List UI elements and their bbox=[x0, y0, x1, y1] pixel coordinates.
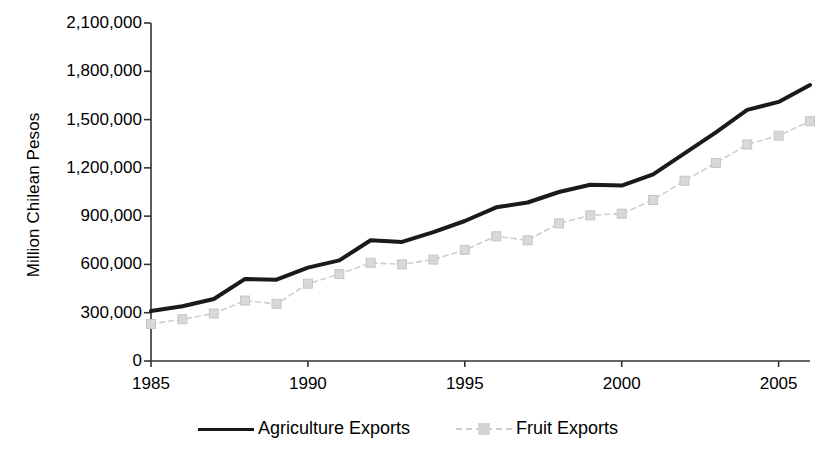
legend-entry-agriculture-exports: Agriculture Exports bbox=[198, 418, 410, 439]
x-axis-tick-label: 1985 bbox=[116, 375, 186, 392]
chart-legend: Agriculture Exports Fruit Exports bbox=[0, 418, 816, 439]
x-axis-tick-label: 2005 bbox=[744, 375, 814, 392]
legend-swatch-solid-line-icon bbox=[198, 421, 254, 437]
x-axis-tick-label: 2000 bbox=[587, 375, 657, 392]
x-axis-tick-label: 1990 bbox=[273, 375, 343, 392]
line-chart: Million Chilean Pesos 2,100,0001,800,000… bbox=[0, 0, 816, 455]
x-axis-tick-label: 1995 bbox=[430, 375, 500, 392]
x-axis-tick-labels: 19851990199520002005 bbox=[0, 0, 816, 455]
legend-swatch-dashed-marker-icon bbox=[456, 421, 512, 437]
legend-label-agriculture-exports: Agriculture Exports bbox=[258, 418, 410, 439]
legend-entry-fruit-exports: Fruit Exports bbox=[456, 418, 618, 439]
legend-label-fruit-exports: Fruit Exports bbox=[516, 418, 618, 439]
